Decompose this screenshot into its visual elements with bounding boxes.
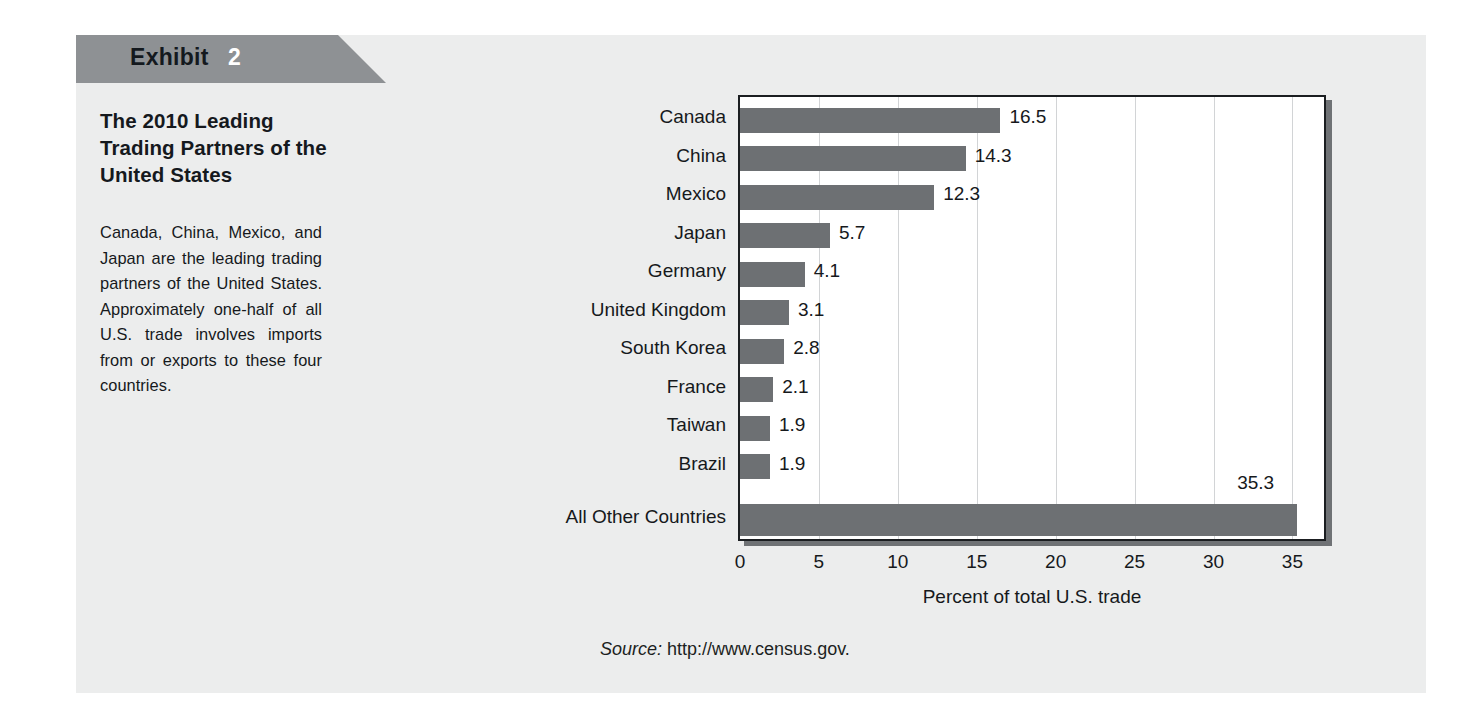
bar-value-label: 3.1 (798, 299, 824, 321)
bar (740, 262, 805, 287)
category-label: Canada (659, 106, 726, 128)
exhibit-panel: Exhibit 2 The 2010 Leading Trading Partn… (76, 35, 1426, 693)
bar-value-label: 2.8 (793, 337, 819, 359)
source-note: Source: http://www.census.gov. (600, 639, 850, 660)
category-label: United Kingdom (591, 299, 726, 321)
x-tick-label: 10 (887, 551, 908, 573)
bar-value-label: 2.1 (782, 376, 808, 398)
bar (740, 146, 966, 171)
x-axis-ticks: 05101520253035 (738, 551, 1326, 577)
bar (740, 223, 830, 248)
bar (740, 300, 789, 325)
category-label: Germany (648, 260, 726, 282)
category-label: France (667, 376, 726, 398)
bar (740, 339, 784, 364)
source-label: Source: (600, 639, 662, 659)
category-label: China (676, 145, 726, 167)
category-label: Taiwan (667, 414, 726, 436)
bar (740, 416, 770, 441)
bar-value-label: 12.3 (943, 183, 980, 205)
bar-value-label: 35.3 (1237, 472, 1274, 494)
category-label: Brazil (678, 453, 726, 475)
bar-value-label: 1.9 (779, 453, 805, 475)
category-axis-labels: CanadaChinaMexicoJapanGermanyUnited King… (570, 95, 726, 541)
x-tick-label: 35 (1282, 551, 1303, 573)
x-tick-label: 30 (1203, 551, 1224, 573)
gridline (1214, 97, 1215, 539)
bar-chart: CanadaChinaMexicoJapanGermanyUnited King… (570, 61, 1410, 661)
category-label: Japan (674, 222, 726, 244)
bar-value-label: 5.7 (839, 222, 865, 244)
exhibit-description: Canada, China, Mexico, and Japan are the… (100, 220, 322, 399)
gridline (1292, 97, 1293, 539)
exhibit-tab-number: 2 (228, 44, 241, 71)
bar-value-label: 14.3 (975, 145, 1012, 167)
x-tick-label: 25 (1124, 551, 1145, 573)
x-tick-label: 5 (814, 551, 825, 573)
exhibit-title: The 2010 Leading Trading Partners of the… (100, 107, 350, 188)
bar-value-label: 1.9 (779, 414, 805, 436)
category-label: Mexico (666, 183, 726, 205)
x-tick-label: 20 (1045, 551, 1066, 573)
x-tick-label: 0 (735, 551, 746, 573)
x-axis-title: Percent of total U.S. trade (738, 586, 1326, 608)
category-label: South Korea (620, 337, 726, 359)
bar (740, 504, 1297, 536)
bar-value-label: 16.5 (1009, 106, 1046, 128)
x-tick-label: 15 (966, 551, 987, 573)
bar (740, 377, 773, 402)
exhibit-tab-label: Exhibit (130, 44, 209, 71)
bar (740, 454, 770, 479)
bar (740, 185, 934, 210)
exhibit-figure: Exhibit 2 The 2010 Leading Trading Partn… (0, 0, 1482, 725)
category-label: All Other Countries (565, 506, 726, 528)
bar-value-label: 4.1 (814, 260, 840, 282)
source-url: http://www.census.gov. (667, 639, 850, 659)
bar (740, 108, 1000, 133)
gridline (1135, 97, 1136, 539)
gridline (1056, 97, 1057, 539)
